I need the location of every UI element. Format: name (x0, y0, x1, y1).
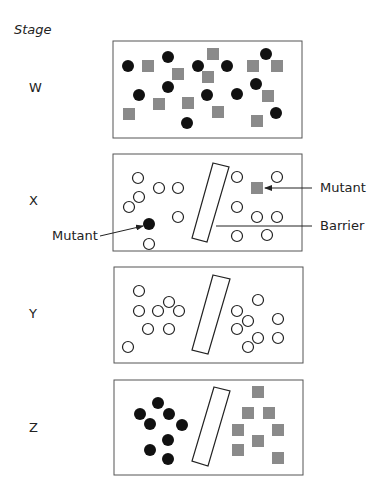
stage-title: Stage (14, 22, 52, 37)
square-organism-w (247, 60, 259, 72)
square-organism-z (263, 407, 275, 419)
filled-circle-organism-z (152, 397, 164, 409)
open-circle-organism-y (134, 306, 145, 317)
filled-circle-organism-w (162, 81, 174, 93)
filled-circle-organism-w (133, 89, 145, 101)
open-circle-organism-y (243, 342, 254, 353)
open-circle-organism-y (273, 333, 284, 344)
open-circle-organism-x (173, 183, 184, 194)
filled-circle-organism-w (270, 107, 282, 119)
open-circle-organism-x (272, 212, 283, 223)
open-circle-organism-x (124, 202, 135, 213)
barrier-y (192, 275, 230, 354)
open-circle-organism-y (273, 314, 284, 325)
open-circle-organism-x (262, 230, 273, 241)
filled-circle-organism-z (144, 418, 156, 430)
filled-circle-organism-z (163, 408, 175, 420)
square-organism-w (153, 98, 165, 110)
open-circle-organism-y (153, 306, 164, 317)
square-organism-z (272, 452, 284, 464)
square-organism-w (271, 60, 283, 72)
filled-circle-organism-z (176, 419, 188, 431)
square-organism-z (272, 424, 284, 436)
square-organism-z (232, 424, 244, 436)
square-organism-z (232, 444, 244, 456)
open-circle-organism-y (232, 306, 243, 317)
mutant-right-label: Mutant (320, 180, 366, 195)
open-circle-organism-x (272, 172, 283, 183)
square-organism-w (123, 108, 135, 120)
stage-label-y: Y (28, 306, 37, 321)
square-organism-z (252, 386, 264, 398)
open-circle-organism-x (133, 173, 144, 184)
filled-circle-organism-z (162, 453, 174, 465)
square-organism-w (202, 71, 214, 83)
open-circle-organism-x (173, 212, 184, 223)
filled-circle-organism-w (260, 48, 272, 60)
square-organism-x (251, 182, 263, 194)
open-circle-organism-x (232, 172, 243, 183)
open-circle-organism-y (134, 286, 145, 297)
filled-circle-organism-z (162, 434, 174, 446)
barrier-z (192, 387, 230, 466)
square-organism-w (172, 68, 184, 80)
filled-circle-organism-w (192, 60, 204, 72)
open-circle-organism-x (252, 212, 263, 223)
open-circle-organism-x (232, 202, 243, 213)
open-circle-organism-x (134, 192, 145, 203)
filled-circle-organism-w (122, 60, 134, 72)
stage-label-w: W (29, 80, 42, 95)
open-circle-organism-y (123, 342, 134, 353)
filled-circle-organism-w (231, 88, 243, 100)
open-circle-organism-y (253, 333, 264, 344)
square-organism-z (242, 407, 254, 419)
open-circle-organism-x (232, 231, 243, 242)
open-circle-organism-y (143, 324, 154, 335)
square-organism-w (251, 115, 263, 127)
square-organism-w (142, 60, 154, 72)
open-circle-organism-y (253, 295, 264, 306)
mutant-left-arrow (100, 226, 143, 236)
barrier-x (192, 163, 229, 242)
open-circle-organism-y (164, 324, 175, 335)
square-organism-w (212, 106, 224, 118)
stage-diagram: Stage W X Y Z Mutant Mutant Barrier (0, 0, 382, 495)
square-organism-w (207, 48, 219, 60)
filled-circle-organism-w (250, 78, 262, 90)
filled-circle-organism-z (134, 408, 146, 420)
mutant-left-label: Mutant (52, 228, 98, 243)
barrier-label: Barrier (320, 218, 365, 233)
filled-circle-organism-w (181, 117, 193, 129)
open-circle-organism-x (154, 183, 165, 194)
open-circle-organism-y (243, 316, 254, 327)
square-organism-w (262, 90, 274, 102)
filled-circle-organism-w (201, 89, 213, 101)
square-organism-z (252, 435, 264, 447)
open-circle-organism-y (174, 306, 185, 317)
square-organism-w (182, 97, 194, 109)
open-circle-organism-y (164, 297, 175, 308)
filled-circle-organism-w (162, 51, 174, 63)
filled-circle-organism-w (221, 60, 233, 72)
filled-circle-organism-x (143, 218, 155, 230)
open-circle-organism-y (232, 324, 243, 335)
filled-circle-organism-z (144, 444, 156, 456)
stage-label-x: X (29, 193, 38, 208)
stage-label-z: Z (29, 420, 38, 435)
open-circle-organism-x (144, 239, 155, 250)
